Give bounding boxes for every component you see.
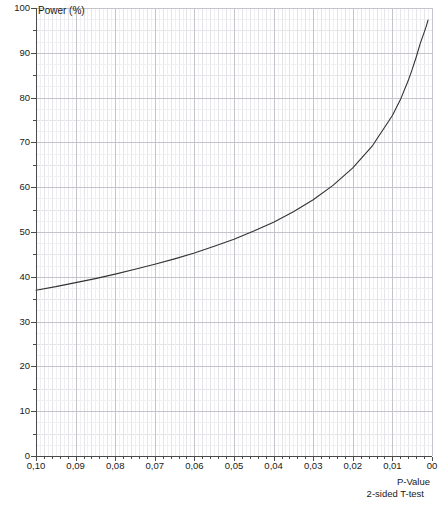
- x-tick-mark: [76, 457, 77, 461]
- x-tick-mark-minor: [321, 457, 322, 459]
- y-tick-mark-minor: [33, 344, 36, 345]
- x-tick-mark-minor: [60, 457, 61, 459]
- y-tick-mark-minor: [33, 299, 36, 300]
- y-tick-label: 90: [4, 48, 30, 58]
- x-tick-mark: [313, 457, 314, 461]
- x-tick-mark-minor: [369, 457, 370, 459]
- x-tick-mark-minor: [52, 457, 53, 459]
- x-tick-mark-minor: [226, 457, 227, 459]
- x-tick-label: 0,09: [56, 461, 96, 471]
- x-tick-mark-minor: [179, 457, 180, 459]
- y-tick-mark: [31, 411, 36, 412]
- x-tick-mark-minor: [107, 457, 108, 459]
- x-tick-mark-minor: [384, 457, 385, 459]
- y-tick-mark-minor: [33, 30, 36, 31]
- y-tick-mark: [31, 142, 36, 143]
- y-tick-label: 40: [4, 272, 30, 282]
- x-tick-mark-minor: [400, 457, 401, 459]
- y-tick-label: 70: [4, 137, 30, 147]
- x-tick-mark-minor: [282, 457, 283, 459]
- y-tick-label: 50: [4, 227, 30, 237]
- x-tick-mark-minor: [171, 457, 172, 459]
- x-tick-mark-minor: [305, 457, 306, 459]
- x-tick-mark-minor: [163, 457, 164, 459]
- x-tick-mark-minor: [408, 457, 409, 459]
- x-tick-label: 0,06: [174, 461, 214, 471]
- x-tick-mark-minor: [424, 457, 425, 459]
- x-tick-label: 0,02: [333, 461, 373, 471]
- x-tick-mark-minor: [210, 457, 211, 459]
- x-tick-mark-minor: [123, 457, 124, 459]
- x-tick-mark-minor: [289, 457, 290, 459]
- y-axis-title: Power (%): [38, 5, 85, 16]
- x-tick-label: 00: [412, 461, 445, 471]
- x-tick-mark-minor: [139, 457, 140, 459]
- x-tick-mark-minor: [131, 457, 132, 459]
- y-tick-label: 30: [4, 317, 30, 327]
- x-tick-mark-minor: [44, 457, 45, 459]
- power-curve-chart: 0102030405060708090100 0,100,090,080,070…: [0, 0, 445, 505]
- x-tick-mark-minor: [68, 457, 69, 459]
- x-tick-label: 0,01: [372, 461, 412, 471]
- y-tick-mark: [31, 8, 36, 9]
- y-tick-mark-minor: [33, 165, 36, 166]
- x-tick-mark: [234, 457, 235, 461]
- x-tick-mark-minor: [202, 457, 203, 459]
- x-tick-mark-minor: [337, 457, 338, 459]
- x-tick-mark-minor: [147, 457, 148, 459]
- y-tick-label: 60: [4, 182, 30, 192]
- y-tick-mark-minor: [33, 434, 36, 435]
- x-tick-mark: [392, 457, 393, 461]
- x-tick-mark-minor: [91, 457, 92, 459]
- y-tick-label: 80: [4, 93, 30, 103]
- x-axis-subtitle: 2-sided T-test: [280, 488, 424, 499]
- x-tick-mark-minor: [258, 457, 259, 459]
- x-tick-mark: [194, 457, 195, 461]
- x-tick-mark-minor: [186, 457, 187, 459]
- x-tick-mark-minor: [297, 457, 298, 459]
- x-tick-mark-minor: [345, 457, 346, 459]
- y-tick-mark: [31, 98, 36, 99]
- y-tick-mark: [31, 53, 36, 54]
- x-tick-label: 0,04: [254, 461, 294, 471]
- x-tick-mark-minor: [250, 457, 251, 459]
- y-tick-label: 10: [4, 406, 30, 416]
- y-tick-mark-minor: [33, 254, 36, 255]
- y-tick-label: 20: [4, 361, 30, 371]
- y-tick-mark-minor: [33, 210, 36, 211]
- x-tick-label: 0,03: [293, 461, 333, 471]
- y-tick-label: 100: [4, 3, 30, 13]
- x-tick-label: 0,07: [135, 461, 175, 471]
- x-tick-label: 0,10: [16, 461, 56, 471]
- x-tick-label: 0,08: [95, 461, 135, 471]
- x-axis-title: P-Value: [300, 476, 430, 487]
- x-tick-mark-minor: [416, 457, 417, 459]
- x-tick-mark-minor: [242, 457, 243, 459]
- x-tick-mark-minor: [266, 457, 267, 459]
- y-tick-mark: [31, 187, 36, 188]
- x-tick-mark-minor: [329, 457, 330, 459]
- y-tick-mark: [31, 232, 36, 233]
- y-tick-mark-minor: [33, 75, 36, 76]
- x-tick-mark-minor: [377, 457, 378, 459]
- x-tick-mark-minor: [218, 457, 219, 459]
- x-tick-mark-minor: [99, 457, 100, 459]
- x-tick-mark: [432, 457, 433, 461]
- y-tick-mark: [31, 366, 36, 367]
- x-tick-mark-minor: [84, 457, 85, 459]
- x-tick-mark: [353, 457, 354, 461]
- y-tick-mark-minor: [33, 389, 36, 390]
- x-tick-mark: [155, 457, 156, 461]
- y-tick-mark: [31, 277, 36, 278]
- x-tick-mark-minor: [361, 457, 362, 459]
- y-tick-mark: [31, 322, 36, 323]
- x-tick-mark: [115, 457, 116, 461]
- x-tick-label: 0,05: [214, 461, 254, 471]
- x-tick-mark: [274, 457, 275, 461]
- x-tick-mark: [36, 457, 37, 461]
- y-axis-ticks: 0102030405060708090100: [0, 0, 445, 505]
- y-tick-mark-minor: [33, 120, 36, 121]
